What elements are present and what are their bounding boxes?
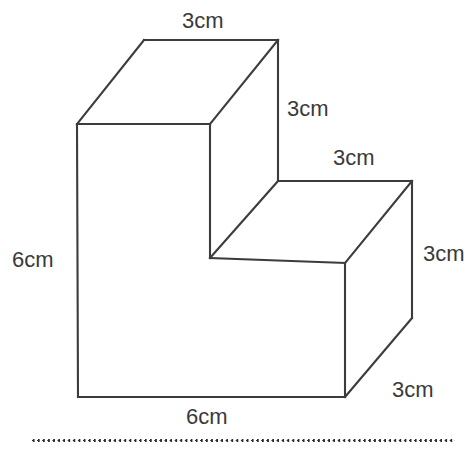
label-base-depth-3cm: 3cm bbox=[392, 379, 434, 401]
label-tall-block-right-height-3cm: 3cm bbox=[287, 98, 329, 120]
label-left-height-6cm: 6cm bbox=[12, 249, 54, 271]
figure-page: 3cm 3cm 3cm 3cm 3cm 6cm 6cm bbox=[0, 0, 472, 460]
dotted-horizontal-rule bbox=[32, 439, 455, 442]
label-top-back-3cm: 3cm bbox=[182, 10, 224, 32]
edge-left-vertical bbox=[77, 124, 78, 397]
label-step-top-depth-3cm: 3cm bbox=[333, 147, 375, 169]
label-front-width-6cm: 6cm bbox=[186, 406, 228, 428]
label-step-right-height-3cm: 3cm bbox=[423, 243, 465, 265]
top-face-tall-block bbox=[77, 40, 278, 124]
